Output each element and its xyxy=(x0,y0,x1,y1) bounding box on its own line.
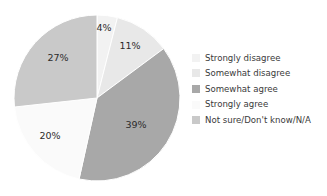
legend-item-label: Strongly agree xyxy=(205,100,268,109)
pie-slice-label: 11% xyxy=(119,40,140,51)
legend-swatch-icon xyxy=(192,85,200,93)
legend-item[interactable]: Strongly disagree xyxy=(192,50,327,66)
legend-item-label: Somewhat disagree xyxy=(205,69,290,78)
legend: Strongly disagreeSomewhat disagreeSomewh… xyxy=(192,50,327,128)
legend-swatch-icon xyxy=(192,101,200,109)
legend-item-label: Strongly disagree xyxy=(205,54,281,63)
pie-slice-group xyxy=(14,15,180,181)
legend-swatch-icon xyxy=(192,116,200,124)
legend-item[interactable]: Not sure/Don't know/N/A xyxy=(192,112,327,128)
legend-item-label: Somewhat agree xyxy=(205,85,278,94)
legend-swatch-icon xyxy=(192,69,200,77)
legend-item[interactable]: Somewhat agree xyxy=(192,81,327,97)
pie-slice-label: 39% xyxy=(125,119,146,130)
legend-item-label: Not sure/Don't know/N/A xyxy=(205,116,311,125)
pie-plot-area: 4%11%39%20%27% xyxy=(0,0,196,196)
pie-slice-label: 27% xyxy=(47,52,68,63)
legend-item[interactable]: Strongly agree xyxy=(192,97,327,113)
pie-chart: 4%11%39%20%27% Strongly disagreeSomewhat… xyxy=(0,0,327,196)
pie-slice-label: 4% xyxy=(96,22,111,33)
legend-item[interactable]: Somewhat disagree xyxy=(192,66,327,82)
pie-slice-label: 20% xyxy=(39,130,60,141)
legend-swatch-icon xyxy=(192,54,200,62)
pie-svg: 4%11%39%20%27% xyxy=(0,0,196,196)
